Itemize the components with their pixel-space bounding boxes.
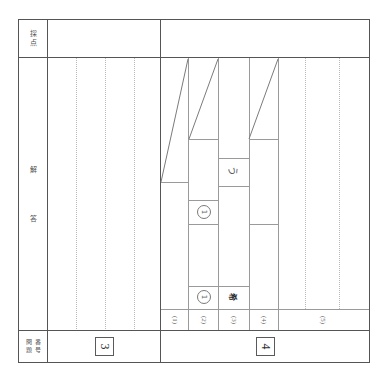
answer-area-subitem-5[interactable]: [279, 58, 369, 309]
subitem-label-2: (2): [196, 312, 212, 328]
frame-bottom-line: [18, 362, 370, 363]
subitem-label-1: (1): [167, 312, 183, 328]
answer-label-char-2: 答: [30, 215, 37, 224]
question-number-3: 3: [95, 337, 114, 356]
subitem-label-3: (3): [226, 312, 242, 328]
question-number-label: 問 題 番 号: [19, 331, 47, 362]
answer-area-subitem-1[interactable]: [161, 58, 188, 309]
scoring-label: 採 点: [19, 20, 47, 57]
answer-area-subitem-4[interactable]: [250, 58, 278, 309]
answer-label: 解 答: [19, 150, 47, 240]
answer-area-subitem-3[interactable]: [219, 58, 249, 309]
answer-area-block-3[interactable]: [48, 58, 159, 329]
scoring-label-char-1: 採: [30, 30, 37, 39]
answer-area-subitem-2[interactable]: [189, 58, 218, 309]
question-number-4: 4: [256, 337, 275, 356]
question-number-label-col-2: 番 号: [35, 339, 41, 353]
question-number-label-col-1: 問 題: [26, 339, 32, 353]
scoring-box-block-3[interactable]: [48, 20, 159, 56]
scoring-label-char-2: 点: [30, 39, 37, 48]
subitem-label-4: (4): [256, 312, 272, 328]
frame-right-line: [369, 19, 370, 363]
answer-sheet: 採 点 解 答 問 題 番 号 3 4: [0, 0, 387, 377]
answer-label-char-1: 解: [30, 166, 37, 175]
subitem-label-row-line: [161, 309, 369, 310]
scoring-box-block-4[interactable]: [161, 20, 368, 56]
footer-top-line: [18, 330, 370, 331]
subitem-label-5: (5): [315, 312, 331, 328]
